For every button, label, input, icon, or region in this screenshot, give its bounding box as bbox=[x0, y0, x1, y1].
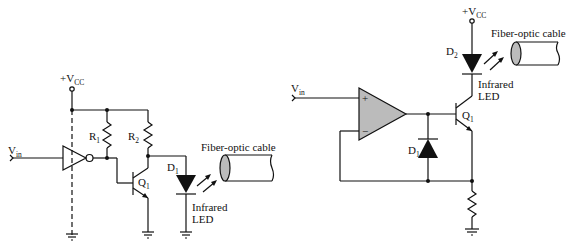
right-q1-label: Q1 bbox=[462, 109, 474, 124]
right-circuit: +VCC D2 Infrared LED Fiber-optic cable V… bbox=[291, 5, 566, 235]
resistor-r2-icon bbox=[144, 110, 152, 156]
right-light-emission-arrows-icon bbox=[484, 51, 504, 70]
right-vin-terminal bbox=[292, 95, 295, 101]
right-led-text-1: Infrared bbox=[478, 78, 514, 90]
right-led-text-2: LED bbox=[478, 90, 499, 102]
left-circuit: +VCC R1 R2 Vin bbox=[8, 72, 276, 240]
left-fiber-optic-cable-icon bbox=[220, 155, 274, 181]
left-cable-label: Fiber-optic cable bbox=[201, 141, 276, 153]
opamp-plus-sign: + bbox=[362, 92, 368, 104]
right-vcc-label: +VCC bbox=[462, 5, 486, 20]
left-led-text-1: Infrared bbox=[192, 201, 228, 213]
left-vcc-terminal bbox=[70, 87, 74, 91]
right-ground-icon bbox=[465, 229, 479, 235]
right-vin-label: Vin bbox=[291, 82, 305, 97]
right-d1-label: D1 bbox=[408, 144, 420, 159]
right-cable-label: Fiber-optic cable bbox=[491, 27, 566, 39]
r2-label: R2 bbox=[128, 130, 139, 145]
left-ground-2-icon bbox=[142, 232, 154, 238]
inverter-gate-icon bbox=[63, 146, 86, 170]
r1-label: R1 bbox=[89, 130, 100, 145]
left-ground-3-icon bbox=[180, 232, 192, 238]
resistor-r1-icon bbox=[103, 110, 111, 158]
d2-label: D2 bbox=[446, 45, 458, 60]
left-vcc-label: +VCC bbox=[60, 72, 84, 87]
opamp-minus-sign: − bbox=[362, 125, 368, 137]
junction-dot bbox=[426, 179, 430, 183]
right-vcc-terminal bbox=[470, 19, 474, 23]
left-vin-label: Vin bbox=[8, 144, 22, 159]
left-led-text-2: LED bbox=[192, 213, 213, 225]
light-emission-arrows-icon bbox=[197, 174, 217, 192]
d1-label: D1 bbox=[167, 161, 179, 176]
circuit-diagram: +VCC R1 R2 Vin bbox=[0, 0, 573, 249]
emitter-resistor-icon bbox=[468, 181, 476, 229]
q1-label: Q1 bbox=[138, 176, 150, 191]
junction-dot bbox=[70, 108, 74, 112]
transistor-q1-icon bbox=[133, 156, 148, 232]
right-fiber-optic-cable-icon bbox=[511, 42, 560, 65]
diode-d1-icon bbox=[418, 114, 438, 181]
